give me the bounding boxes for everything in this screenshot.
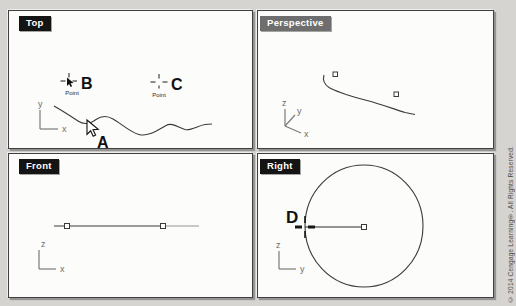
- front-viewport-canvas: z x: [9, 154, 252, 297]
- perspective-axis-d-label: y: [297, 106, 302, 116]
- copyright-text: © 2014 Cengage Learning®. All Rights Res…: [507, 146, 514, 303]
- four-viewport-cad-layout: y x Point B Point C A Top: [0, 0, 516, 306]
- front-axis-v-label: z: [41, 239, 46, 249]
- right-axis-h-label: y: [300, 264, 305, 274]
- viewport-title-perspective[interactable]: Perspective: [260, 16, 331, 31]
- top-axis-v-label: y: [38, 99, 43, 109]
- letter-d: D: [286, 208, 298, 227]
- viewport-front[interactable]: z x Front: [8, 153, 253, 298]
- letter-a: A: [97, 134, 109, 148]
- control-point[interactable]: [161, 224, 166, 229]
- right-axis-v-label: z: [276, 240, 281, 250]
- point-c-tooltip: Point: [152, 92, 166, 98]
- pick-cursor-icon: [67, 78, 74, 88]
- viewport-title-right[interactable]: Right: [260, 159, 300, 174]
- right-viewport-canvas: D z y: [258, 154, 493, 297]
- perspective-axis-h-label: x: [304, 129, 309, 139]
- front-axis-h-label: x: [60, 264, 65, 274]
- top-axis-gnomon: [40, 110, 58, 129]
- viewport-perspective[interactable]: z y x Perspective: [257, 10, 494, 149]
- viewport-title-front[interactable]: Front: [19, 159, 59, 174]
- top-axis-h-label: x: [62, 124, 67, 134]
- letter-c: C: [171, 76, 183, 93]
- perspective-viewport-canvas: z y x: [258, 11, 493, 148]
- perspective-axis-v-label: z: [282, 98, 287, 108]
- viewport-top[interactable]: y x Point B Point C A Top: [8, 10, 253, 149]
- viewport-right[interactable]: D z y Right: [257, 153, 494, 298]
- letter-b: B: [81, 75, 93, 92]
- top-viewport-canvas: y x Point B Point C A: [9, 11, 252, 148]
- right-axis-gnomon: [279, 251, 296, 269]
- top-curve[interactable]: [54, 106, 212, 135]
- control-point[interactable]: [333, 72, 338, 77]
- point-b-tooltip: Point: [65, 90, 79, 96]
- point-c-marker[interactable]: [151, 74, 168, 89]
- control-point[interactable]: [65, 224, 70, 229]
- front-axis-gnomon: [39, 250, 56, 269]
- control-point[interactable]: [394, 92, 399, 97]
- perspective-curve[interactable]: [323, 75, 415, 115]
- viewport-title-top[interactable]: Top: [19, 16, 51, 31]
- control-point[interactable]: [362, 225, 367, 230]
